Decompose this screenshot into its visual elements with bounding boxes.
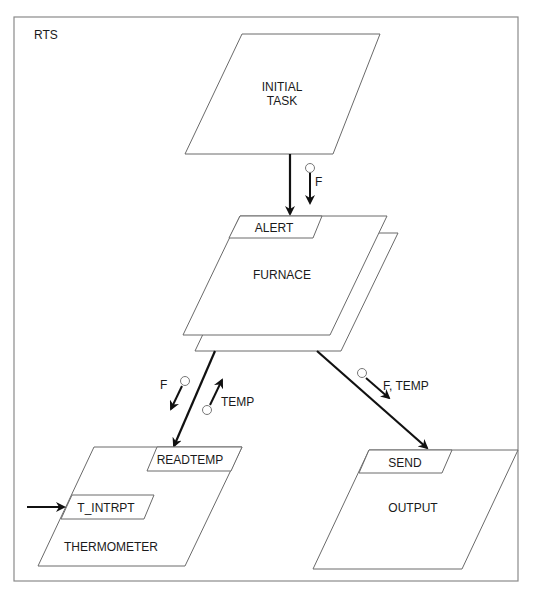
entry-send-label: SEND <box>388 456 422 470</box>
task-furnace[interactable]: ALERT FURNACE <box>183 216 398 351</box>
task-thermometer-label: THERMOMETER <box>64 540 158 554</box>
task-output[interactable]: SEND OUTPUT <box>313 450 518 569</box>
structure-chart: RTS INITIAL TASK F ALERT FURNACE F TEMP … <box>0 0 553 595</box>
frame-label: RTS <box>34 28 58 42</box>
entry-alert-label: ALERT <box>255 221 294 235</box>
task-initial-label-1: INITIAL <box>262 80 303 94</box>
task-output-label: OUTPUT <box>388 501 438 515</box>
task-initial-label-2: TASK <box>267 94 297 108</box>
data-couple-icon <box>181 377 190 386</box>
flow-furnace-to-send <box>317 351 427 448</box>
entry-readtemp-label: READTEMP <box>157 453 224 467</box>
task-initial[interactable]: INITIAL TASK <box>185 34 380 154</box>
data-couple-icon <box>306 164 315 173</box>
task-thermometer[interactable]: READTEMP T_INTRPT THERMOMETER <box>38 447 242 566</box>
data-couple-icon <box>358 369 367 378</box>
couple-arrow-f-down <box>171 386 182 409</box>
data-couple-icon <box>203 406 212 415</box>
couple-label-f-temp: F, TEMP <box>383 379 429 393</box>
couple-label-f-thermo: F <box>160 378 167 392</box>
couple-label-temp: TEMP <box>221 395 254 409</box>
couple-label-f-initial: F <box>315 175 322 189</box>
entry-t-intrpt-label: T_INTRPT <box>77 501 135 515</box>
flow-furnace-to-readtemp <box>174 351 215 446</box>
task-furnace-label: FURNACE <box>253 268 311 282</box>
